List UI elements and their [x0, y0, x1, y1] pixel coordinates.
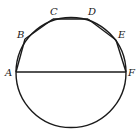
label-point-a: A	[4, 67, 12, 78]
label-point-e: E	[117, 29, 126, 40]
polygon-segments	[16, 19, 126, 72]
circle-polygon-figure: ABCDEF	[0, 0, 138, 133]
segment-ef	[116, 40, 126, 72]
segment-de	[88, 19, 116, 40]
label-point-d: D	[87, 6, 96, 17]
segment-bc	[25, 19, 53, 39]
label-point-f: F	[127, 67, 136, 78]
label-point-c: C	[50, 6, 58, 17]
geometry-diagram: ABCDEF	[0, 0, 138, 133]
label-point-b: B	[16, 29, 24, 40]
segment-ab	[16, 39, 25, 72]
